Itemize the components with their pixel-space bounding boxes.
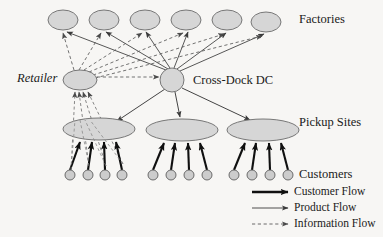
- customer-node: [283, 170, 293, 180]
- factory-node: [130, 10, 160, 30]
- legend-sample-lines: [252, 192, 288, 224]
- factory-node: [212, 10, 242, 30]
- factory-node: [251, 12, 281, 32]
- factory-nodes: [48, 10, 281, 32]
- customer-node: [148, 170, 158, 180]
- factory-node: [89, 10, 119, 30]
- customer-node: [229, 170, 239, 180]
- customer-node: [100, 170, 110, 180]
- label-pickup-sites: Pickup Sites: [299, 115, 361, 130]
- customer-node: [247, 170, 257, 180]
- legend-label-product-flow: Product Flow: [294, 201, 356, 213]
- customer-node: [83, 170, 93, 180]
- customer-node: [65, 170, 75, 180]
- cross-dock-node: [160, 68, 184, 92]
- pickup-site-node: [227, 119, 299, 141]
- factory-node: [48, 10, 78, 30]
- customer-node: [117, 170, 127, 180]
- retailer-node: [63, 70, 97, 90]
- label-retailer: Retailer: [17, 71, 57, 86]
- legend-label-customer-flow: Customer Flow: [294, 185, 365, 197]
- label-cross-dock-dc: Cross-Dock DC: [193, 73, 273, 88]
- customer-nodes: [65, 170, 293, 180]
- pickup-site-node: [146, 119, 218, 141]
- label-customers: Customers: [299, 167, 352, 182]
- customer-flow-arrows: [70, 142, 288, 170]
- product-flow-dc-to-factories: [67, 32, 264, 71]
- label-factories: Factories: [299, 12, 345, 27]
- information-flow-retailer-to-factories: [63, 33, 262, 78]
- customer-node: [202, 170, 212, 180]
- customer-node: [166, 170, 176, 180]
- pickup-site-nodes: [63, 118, 299, 141]
- customer-node: [184, 170, 194, 180]
- factory-node: [171, 10, 201, 30]
- legend-label-information-flow: Information Flow: [294, 217, 375, 229]
- customer-node: [265, 170, 275, 180]
- product-flow-dc-to-pickup: [117, 88, 250, 121]
- diagram-canvas: Factories Retailer Cross-Dock DC Pickup …: [0, 0, 383, 237]
